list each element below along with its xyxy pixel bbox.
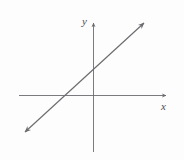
plotted-line bbox=[25, 23, 144, 132]
coordinate-plane bbox=[0, 0, 184, 160]
x-axis-label: x bbox=[161, 101, 166, 112]
y-axis-label: y bbox=[82, 16, 87, 27]
figure-canvas: y x bbox=[0, 0, 184, 160]
